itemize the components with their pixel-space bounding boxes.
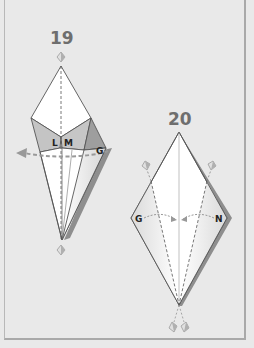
- diagram-page: 19: [0, 0, 254, 348]
- label-l: L: [52, 138, 58, 148]
- label-g: G: [96, 146, 103, 156]
- origami-diagrams: 19: [0, 0, 254, 348]
- turn-over-marker-icon: [57, 52, 65, 62]
- fold-marker-right-icon: [208, 161, 216, 170]
- double-fold-marker-icon: [169, 322, 189, 332]
- fold-marker-left-icon: [142, 161, 150, 170]
- label-m: M: [64, 138, 73, 148]
- step-19: 19: [16, 28, 112, 255]
- label-n: N: [215, 214, 223, 224]
- label-g: G: [135, 214, 142, 224]
- step-number-20: 20: [168, 109, 192, 129]
- step-20: 20: [131, 109, 232, 332]
- turn-over-marker-bottom-icon: [57, 245, 65, 255]
- step-number-19: 19: [50, 28, 74, 48]
